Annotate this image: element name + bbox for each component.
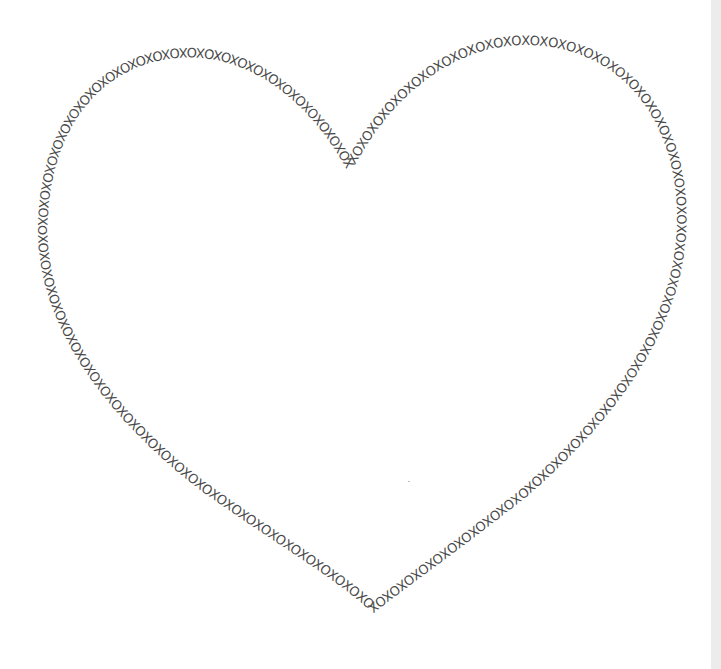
- heart-left-text: XOXOXOXOXOXOXOXOXOXOXOXOXOXOXOXOXOXOXOXO…: [0, 0, 377, 612]
- paper-speck: [408, 481, 410, 482]
- heart-right-textpath: XOXOXOXOXOXOXOXOXOXOXOXOXOXOXOXOXOXOXOXO…: [0, 0, 689, 616]
- heart-artwork: XOXOXOXOXOXOXOXOXOXOXOXOXOXOXOXOXOXOXOXO…: [0, 0, 711, 669]
- heart-left-textpath: XOXOXOXOXOXOXOXOXOXOXOXOXOXOXOXOXOXOXOXO…: [0, 0, 377, 612]
- page-edge-strip: [711, 0, 721, 669]
- heart-right-text: XOXOXOXOXOXOXOXOXOXOXOXOXOXOXOXOXOXOXOXO…: [0, 0, 689, 616]
